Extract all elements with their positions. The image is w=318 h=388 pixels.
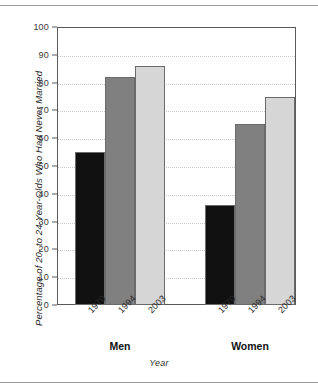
top-divider-rule (0, 5, 318, 6)
y-tick-label: 100 (33, 22, 49, 32)
x-axis-labels: 197019942003Men197019942003Women (57, 306, 296, 356)
y-tick-mark (52, 193, 57, 194)
group-label-women: Women (231, 340, 269, 352)
y-tick-label: 40 (39, 189, 49, 199)
y-tick-mark (52, 166, 57, 167)
y-tick-label: 10 (39, 272, 49, 282)
bar-women-1970 (205, 205, 235, 305)
y-tick-mark (52, 277, 57, 278)
y-tick-mark (52, 138, 57, 139)
bar-men-1970 (75, 152, 105, 305)
y-tick-mark (52, 249, 57, 250)
y-tick-label: 30 (39, 217, 49, 227)
y-tick-label: 60 (39, 133, 49, 143)
bar-men-2003 (135, 66, 165, 305)
chart-figure: Percentage of 20- to 24-Year-Olds Who Ha… (0, 0, 318, 388)
y-tick-mark (52, 82, 57, 83)
bottom-divider-rule (0, 382, 318, 383)
y-tick-label: 50 (39, 161, 49, 171)
y-tick-label: 20 (39, 244, 49, 254)
y-tick-mark (52, 54, 57, 55)
y-tick-label: 70 (39, 105, 49, 115)
bar-men-1994 (105, 77, 135, 305)
y-tick-label: 0 (44, 300, 49, 310)
bar-women-2003 (265, 97, 295, 306)
y-tick-mark (52, 221, 57, 222)
y-tick-labels: 0102030405060708090100 (0, 27, 57, 306)
y-tick-label: 90 (39, 50, 49, 60)
bars-layer (57, 27, 296, 305)
bar-women-1994 (235, 124, 265, 305)
group-label-men: Men (110, 340, 131, 352)
x-axis-title: Year (0, 358, 318, 368)
y-tick-label: 80 (39, 78, 49, 88)
y-tick-mark (52, 27, 57, 28)
y-tick-mark (52, 110, 57, 111)
